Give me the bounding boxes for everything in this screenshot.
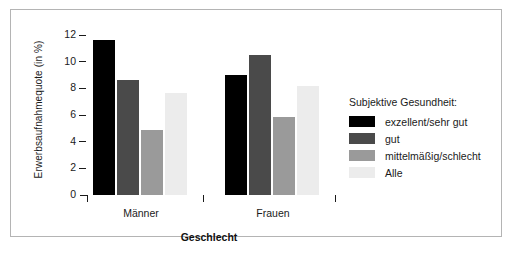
y-axis-tick-mark	[79, 168, 86, 169]
legend-swatch	[349, 116, 375, 127]
x-axis-title: Geschlecht	[89, 231, 329, 243]
legend-items: exzellent/sehr gutgutmittelmäßig/schlech…	[349, 113, 509, 181]
legend-item: gut	[349, 130, 509, 147]
x-axis-tick	[203, 195, 204, 202]
y-axis-tick-label: 10	[50, 55, 76, 67]
y-axis-tick-mark	[79, 88, 86, 89]
legend-item: Alle	[349, 164, 509, 181]
legend-item: exzellent/sehr gut	[349, 113, 509, 130]
bar	[273, 117, 295, 195]
legend-label: Alle	[385, 167, 403, 179]
y-axis-tick-label: 8	[50, 81, 76, 93]
legend-swatch	[349, 150, 375, 161]
y-axis-tick-mark	[79, 141, 86, 142]
bar	[141, 130, 163, 195]
bar	[93, 40, 115, 195]
legend-title: Subjektive Gesundheit:	[349, 96, 509, 108]
bar-series-container	[89, 35, 329, 195]
legend-swatch	[349, 167, 375, 178]
chart-frame: Erwerbsaufnahmequote (in %) 024681012 Mä…	[10, 9, 502, 237]
x-axis-group-label: Frauen	[256, 207, 289, 219]
plot-area: 024681012 MännerFrauen Geschlecht	[89, 35, 329, 195]
bar	[249, 55, 271, 195]
y-axis-title: Erwerbsaufnahmequote (in %)	[33, 20, 44, 200]
bar	[117, 80, 139, 195]
axis-origin-corner	[80, 195, 88, 202]
chart-figure: Erwerbsaufnahmequote (in %) 024681012 Mä…	[0, 0, 514, 255]
y-axis-tick-mark	[79, 35, 86, 36]
legend-swatch	[349, 133, 375, 144]
chart-legend: Subjektive Gesundheit: exzellent/sehr gu…	[349, 96, 509, 181]
bar	[225, 75, 247, 195]
y-axis-tick-label: 4	[50, 135, 76, 147]
y-axis-tick-mark	[79, 115, 86, 116]
y-axis-tick-label: 6	[50, 108, 76, 120]
y-axis-tick-label: 2	[50, 161, 76, 173]
legend-label: gut	[385, 133, 400, 145]
x-axis-tick	[335, 195, 336, 202]
x-axis-group-label: Männer	[123, 207, 159, 219]
y-axis-tick-label: 0	[50, 188, 76, 200]
legend-label: exzellent/sehr gut	[385, 116, 467, 128]
legend-item: mittelmäßig/schlecht	[349, 147, 509, 164]
y-axis-tick-mark	[79, 61, 86, 62]
bar	[165, 93, 187, 195]
y-axis-tick-label: 12	[50, 28, 76, 40]
legend-label: mittelmäßig/schlecht	[385, 150, 481, 162]
bar	[297, 86, 319, 195]
